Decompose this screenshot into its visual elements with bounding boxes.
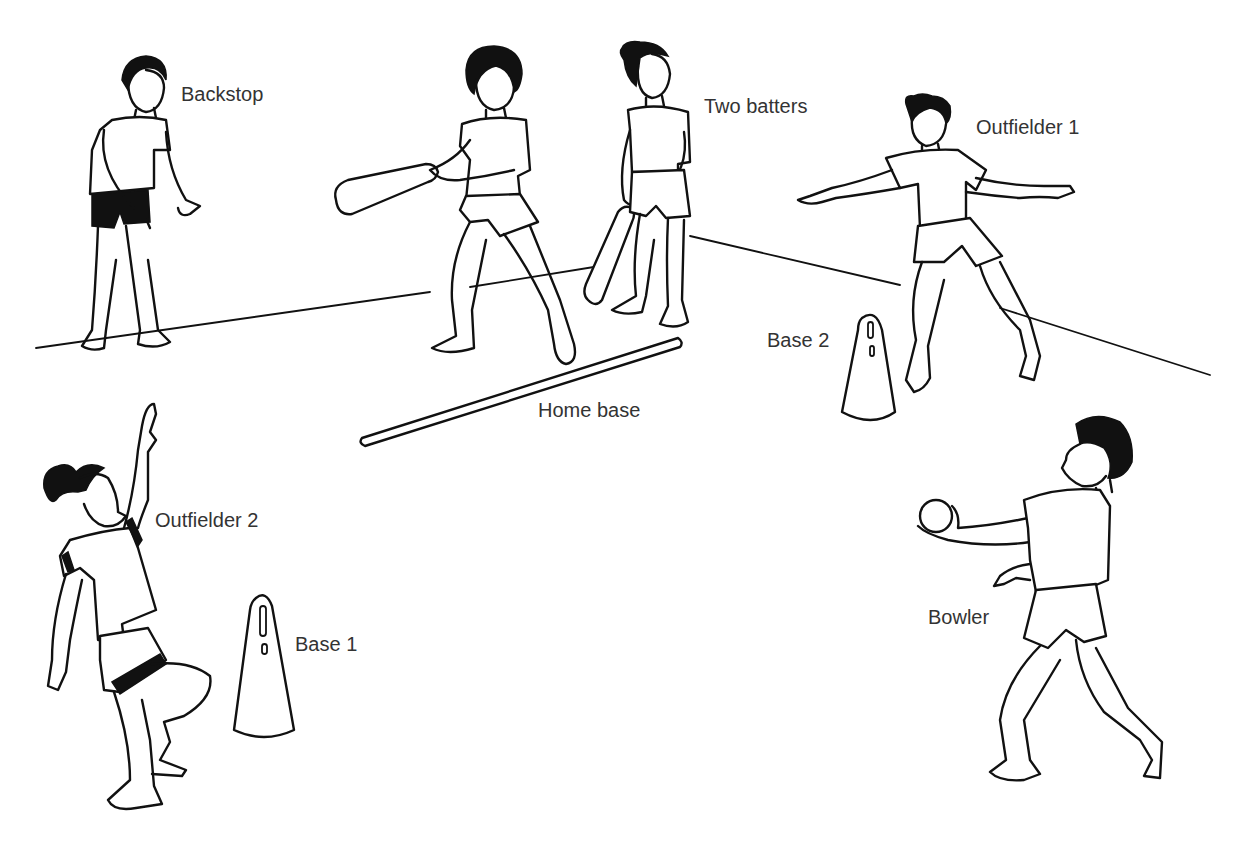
outfielder-2-figure [44, 404, 211, 809]
home-base-stick [361, 338, 682, 446]
rounders-diagram: Backstop Two batters Outfielder 1 Base 2… [0, 0, 1241, 842]
base-2-cone [842, 315, 895, 420]
label-bowler: Bowler [928, 607, 989, 627]
label-outfielder-1: Outfielder 1 [976, 117, 1079, 137]
label-base-2: Base 2 [767, 330, 829, 350]
label-backstop: Backstop [181, 84, 263, 104]
bowler-figure [918, 416, 1162, 780]
label-base-1: Base 1 [295, 634, 357, 654]
label-outfielder-2: Outfielder 2 [155, 510, 258, 530]
outfielder-1-figure [798, 94, 1074, 392]
label-two-batters: Two batters [704, 96, 807, 116]
batter-1-figure [335, 46, 575, 364]
batter-2-figure [584, 42, 690, 327]
ball-icon [920, 500, 952, 532]
label-home-base: Home base [538, 400, 640, 420]
base-1-cone [234, 595, 294, 737]
